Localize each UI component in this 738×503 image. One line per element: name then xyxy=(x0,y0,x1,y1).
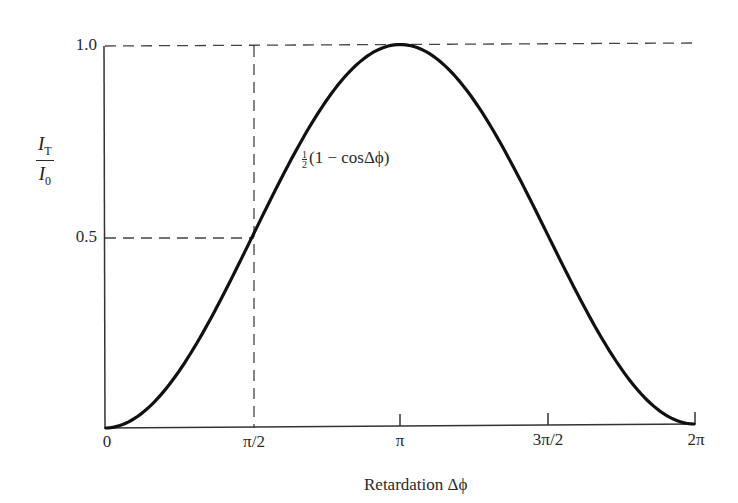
x-tick-label-2pi: 2π xyxy=(666,430,726,450)
guide-lines xyxy=(105,43,692,428)
x-tick-label-3pi2: 3π/2 xyxy=(518,430,578,450)
y-axis-label: IT I0 xyxy=(36,134,54,187)
axes xyxy=(104,46,696,429)
x-axis-label: Retardation Δϕ xyxy=(364,475,467,495)
y-tick-label-1: 1.0 xyxy=(57,35,97,55)
curve-annotation: 12(1 − cosΔϕ) xyxy=(302,148,389,169)
data-curve xyxy=(105,45,695,429)
chart-canvas xyxy=(0,0,738,503)
y-tick-label-0.5: 0.5 xyxy=(57,227,97,247)
x-tick-label-pi2: π/2 xyxy=(224,432,284,452)
y-axis xyxy=(104,46,105,429)
x-tick-label-0: 0 xyxy=(77,432,137,452)
one-half-fraction: 12 xyxy=(302,150,307,169)
x-tick-label-pi: π xyxy=(370,431,430,451)
